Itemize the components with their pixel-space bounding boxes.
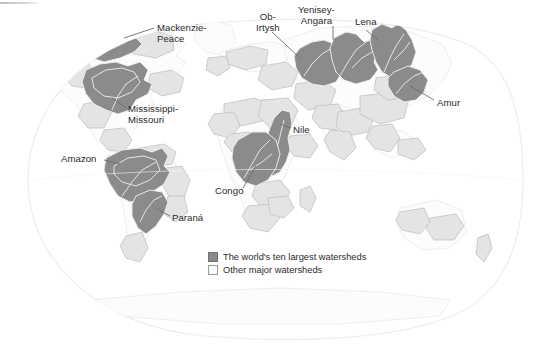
map-label-amazon: Amazon: [61, 154, 97, 165]
map-label-amur: Amur: [437, 98, 460, 109]
map-label-ob-irtysh: Ob- Irtysh: [256, 12, 280, 33]
map-label-nile: Nile: [293, 125, 310, 136]
map-label-mississippi-missouri: Mississippi- Missouri: [128, 104, 178, 125]
legend-label-largest: The world's ten largest watersheds: [223, 252, 366, 262]
world-map-svg: [0, 0, 535, 358]
map-label-lena: Lena: [355, 17, 377, 28]
legend-item-other: Other major watersheds: [208, 264, 366, 275]
map-label-mackenzie-peace: Mackenzie- Peace: [157, 23, 207, 44]
legend-item-largest: The world's ten largest watersheds: [208, 251, 366, 262]
map-label-congo: Congo: [215, 186, 244, 197]
map-label-parana: Paraná: [172, 213, 203, 224]
legend-swatch-light-icon: [208, 265, 218, 275]
map-label-yenisey-angara: Yenisey- Angara: [298, 5, 335, 26]
watershed-map-figure: Mackenzie- Peace Ob- Irtysh Yenisey- Ang…: [0, 0, 535, 358]
map-legend: The world's ten largest watersheds Other…: [208, 251, 366, 277]
legend-label-other: Other major watersheds: [223, 265, 322, 275]
legend-swatch-dark-icon: [208, 252, 218, 262]
